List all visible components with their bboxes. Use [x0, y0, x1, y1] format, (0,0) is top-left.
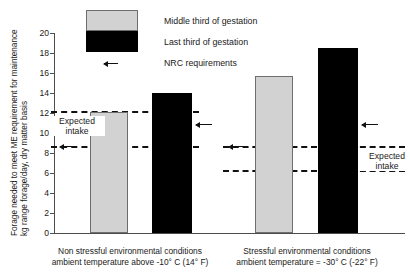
annotation-expected-intake-group1-line1: Expected [50, 116, 104, 126]
x-axis-group-label-2-line2: ambient temperature = -30° C (-22° F) [222, 257, 392, 268]
y-tick-label-16: 16 [39, 68, 49, 78]
y-tick-label-18: 18 [39, 48, 49, 58]
annotation-expected-intake-group2-line1: Expected [360, 151, 410, 161]
y-tick-12 [50, 113, 55, 114]
x-axis-group-label-1-line2: ambient temperature above -10° C (14° F) [50, 257, 210, 268]
nrc-arrow-group2-last-third [362, 124, 378, 125]
y-tick-label-12: 12 [39, 108, 49, 118]
legend-item-last-third: Last third of gestation [86, 31, 336, 52]
x-axis-group-label-1-line1: Non stressful environmental conditions [50, 246, 210, 257]
chart-container: Forage needed to meet ME requirement for… [0, 0, 410, 274]
y-tick-label-4: 4 [44, 188, 49, 198]
y-tick-label-2: 2 [44, 208, 49, 218]
bar-group2-last-third [318, 48, 358, 233]
y-tick-8 [50, 153, 55, 154]
y-tick-18 [50, 53, 55, 54]
y-tick-20 [50, 33, 55, 34]
legend-arrow-icon [104, 63, 118, 64]
x-axis-line [54, 233, 405, 234]
annotation-expected-intake-group1-line2: intake [50, 126, 104, 136]
y-tick-14 [50, 93, 55, 94]
bar-group2-middle-third [255, 76, 293, 233]
nrc-arrow-group2-middle-third [229, 146, 245, 147]
reference-line-nrc-group2 [223, 146, 405, 148]
annotation-expected-intake-group2-line2: intake [360, 161, 410, 171]
y-tick-label-6: 6 [44, 168, 49, 178]
y-axis-title: Forage needed to meet ME requirement for… [0, 0, 30, 245]
y-axis-title-line1: Forage needed to meet ME requirement for… [10, 29, 19, 236]
y-tick-label-10: 10 [39, 128, 49, 138]
x-axis-group-label-2: Stressful environmental conditions ambie… [222, 246, 392, 267]
bar-group1-last-third [152, 93, 192, 233]
x-axis-group-label-2-line1: Stressful environmental conditions [222, 246, 392, 257]
annotation-expected-intake-group1: Expected intake [49, 116, 105, 136]
legend-swatch-last-third-icon [86, 31, 138, 52]
nrc-arrow-group1-middle-third [60, 146, 76, 147]
y-tick-6 [50, 173, 55, 174]
y-axis-title-line2: kg range forage/day, dry matter basis [20, 101, 29, 236]
y-tick-label-20: 20 [39, 28, 49, 38]
legend-label-last-third: Last third of gestation [164, 37, 248, 47]
y-tick-label-8: 8 [44, 148, 49, 158]
legend-label-middle-third: Middle third of gestation [164, 16, 257, 26]
y-tick-label-14: 14 [39, 88, 49, 98]
legend-item-middle-third: Middle third of gestation [86, 10, 336, 31]
legend-item-nrc-requirements: NRC requirements [86, 52, 336, 73]
x-axis-group-label-1: Non stressful environmental conditions a… [50, 246, 210, 267]
legend-swatch-middle-third-icon [86, 10, 138, 31]
y-tick-2 [50, 213, 55, 214]
annotation-expected-intake-group2: Expected intake [359, 151, 410, 171]
y-tick-label-0: 0 [44, 228, 49, 238]
chart-legend: Middle third of gestation Last third of … [86, 10, 336, 73]
legend-label-nrc-requirements: NRC requirements [164, 58, 237, 68]
y-tick-0 [50, 233, 55, 234]
y-tick-4 [50, 193, 55, 194]
nrc-arrow-group1-last-third [196, 124, 212, 125]
y-tick-16 [50, 73, 55, 74]
